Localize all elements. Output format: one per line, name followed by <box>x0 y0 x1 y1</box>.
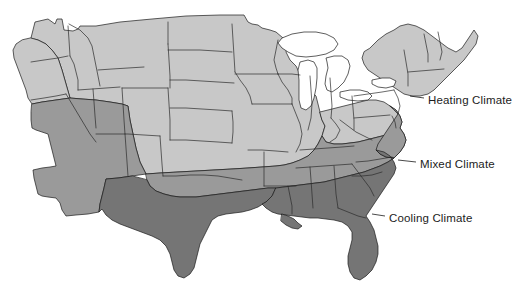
legend-label-heating-climate: Heating Climate <box>428 94 512 106</box>
leader-line-cooling <box>372 214 385 216</box>
us-climate-map <box>0 0 515 295</box>
legend-label-cooling-climate: Cooling Climate <box>389 212 472 224</box>
climate-zone-map-figure: Heating Climate Mixed Climate Cooling Cl… <box>0 0 515 295</box>
lake-huron-shape <box>325 56 350 92</box>
legend-label-mixed-climate: Mixed Climate <box>420 158 495 170</box>
leader-line-mixed <box>398 160 416 162</box>
lake-ontario-shape <box>372 78 396 88</box>
